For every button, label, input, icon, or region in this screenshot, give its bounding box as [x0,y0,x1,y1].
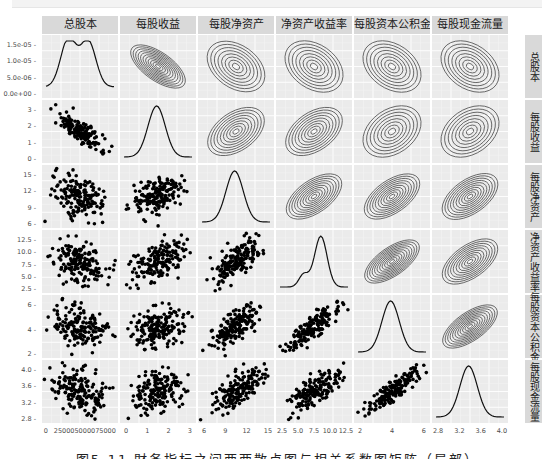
contour-panel [432,100,508,163]
y-tick-label: 1.5e-05 - [0,41,36,49]
y-tick-label: 5.0e-06 - [0,74,36,82]
scatter-panel [120,230,196,293]
scatter-panel [354,360,430,423]
contour-panel [432,165,508,228]
y-tick-label: 4.0 - [0,366,36,374]
strip-right-1: 总股本 [525,35,542,98]
y-tick-label: 4 - [0,326,36,334]
strip-top-4: 净资产收益率 [276,16,352,34]
density-panel [276,230,352,293]
scatter-panel [42,165,118,228]
y-tick-label: 1 - [0,139,36,147]
y-tick-label: 12.5 - [0,236,36,244]
y-tick-label: 9 - [0,204,36,212]
scatter-panel [42,230,118,293]
x-tick-label: 4.0 [487,427,517,435]
top-border-bar [12,0,542,8]
scatter-panel [276,360,352,423]
x-tick-label: 4 [377,427,407,435]
density-panel [198,165,274,228]
strip-label: 每股收益 [526,112,541,152]
contour-panel [276,165,352,228]
strip-label: 每股资本公积金 [526,292,541,362]
y-tick-label: 2.5 - [0,285,36,293]
scatter-panel [120,165,196,228]
scatter-panel [42,100,118,163]
y-tick-label: 15 - [0,171,36,179]
strip-label: 总股本 [526,52,541,82]
contour-panel [198,100,274,163]
strip-label: 每股净资产 [526,172,541,222]
strip-top-6: 每股现金流量 [432,16,508,34]
contour-panel [198,35,274,98]
scatter-panel [120,295,196,358]
x-tick-label: 2 [345,427,375,435]
strip-top-2: 每股收益 [120,16,196,34]
y-tick-label: 5.0 - [0,273,36,281]
strip-right-2: 每股收益 [525,100,542,163]
contour-panel [432,295,508,358]
density-panel [432,360,508,423]
y-tick-label: 3.2 - [0,399,36,407]
y-tick-label: 2 - [0,350,36,358]
contour-panel [276,35,352,98]
scatter-panel [42,360,118,423]
density-panel [120,100,196,163]
y-tick-label: 6 - [0,301,36,309]
scatter-panel [120,360,196,423]
density-panel [42,35,118,98]
figure-caption: 图5-11 財务指标之间两两散点图与相关系数图矩阵（局部） [0,449,555,459]
y-tick-label: 6 - [0,220,36,228]
x-tick-label: 0 [36,427,56,435]
strip-top-1: 总股本 [42,16,118,34]
scatter-panel [276,295,352,358]
contour-panel [354,230,430,293]
y-tick-label: 10.0 - [0,248,36,256]
x-tick-label: 250005000075000 [54,427,114,435]
contour-panel [432,35,508,98]
contour-panel [354,35,430,98]
scatter-panel [198,360,274,423]
y-tick-label: 12 - [0,187,36,195]
y-tick-label: 2.8 - [0,415,36,423]
strip-label: 净资产收益率 [526,232,541,292]
strip-right-4: 净资产收益率 [525,230,542,293]
y-tick-label: 2 - [0,122,36,130]
strip-right-5: 每股资本公积金 [525,295,542,358]
strip-right-3: 每股净资产 [525,165,542,228]
contour-panel [432,230,508,293]
scatter-panel [42,295,118,358]
density-panel [354,295,430,358]
y-tick-label: 0 - [0,155,36,163]
contour-panel [120,35,196,98]
strip-top-5: 每股资本公积金 [354,16,430,34]
y-tick-label: 3 - [0,106,36,114]
strip-top-3: 每股净资产 [198,16,274,34]
contour-panel [276,100,352,163]
contour-panel [354,165,430,228]
strip-right-6: 每股现金流量 [525,360,542,423]
y-tick-label: 7.5 - [0,261,36,269]
y-tick-label: 3.6 - [0,382,36,390]
y-tick-label: 1.0e-05 - [0,57,36,65]
strip-label: 每股现金流量 [526,362,541,422]
contour-panel [354,100,430,163]
y-tick-label: 0.0e+00 - [0,90,36,98]
scatter-panel [198,295,274,358]
scatter-panel [198,230,274,293]
